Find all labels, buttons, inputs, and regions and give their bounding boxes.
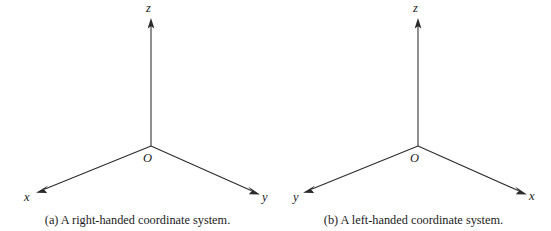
origin-label: O: [410, 152, 419, 165]
axis-y: [303, 146, 418, 193]
axis-label-y: y: [262, 191, 268, 204]
panel-right-handed: z x y O (a) A right-handed coordinate sy…: [0, 0, 275, 231]
axis-z: [415, 18, 422, 146]
axes-diagram-left-handed: [276, 0, 551, 205]
axis-label-z: z: [413, 2, 418, 15]
axis-x: [36, 146, 151, 193]
axis-label-x: x: [529, 190, 535, 203]
axes-diagram-right-handed: [0, 0, 275, 205]
axis-label-x: x: [24, 191, 30, 204]
figure-root: z x y O (a) A right-handed coordinate sy…: [0, 0, 551, 231]
panel-left-handed: z y x O (b) A left-handed coordinate sys…: [276, 0, 551, 231]
axis-label-z: z: [146, 2, 151, 15]
axis-z: [148, 18, 155, 146]
axis-y: [151, 146, 260, 195]
origin-label: O: [143, 152, 152, 165]
axis-x: [418, 146, 527, 195]
axis-label-y: y: [293, 191, 299, 204]
panel-caption-left-handed: (b) A left-handed coordinate system.: [276, 213, 551, 228]
panel-caption-right-handed: (a) A right-handed coordinate system.: [0, 213, 275, 228]
